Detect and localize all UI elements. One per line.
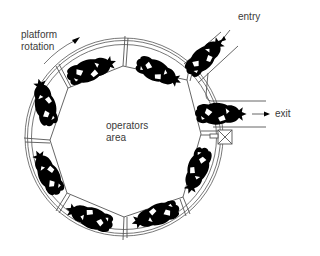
- cow-icon: [195, 103, 247, 125]
- operators-area-label: operators area: [106, 120, 148, 144]
- exit-arrow-icon: [252, 112, 270, 117]
- exit-label: exit: [275, 108, 291, 120]
- label-line: area: [106, 132, 148, 144]
- entry-label: entry: [238, 11, 260, 23]
- label-line: platform: [21, 29, 57, 41]
- label-line: rotation: [21, 41, 57, 53]
- crossed-box-icon: [210, 130, 232, 144]
- label-line: operators: [106, 120, 148, 132]
- entry-arrow-icon: [220, 30, 230, 42]
- platform-rotation-label: platform rotation: [21, 29, 57, 53]
